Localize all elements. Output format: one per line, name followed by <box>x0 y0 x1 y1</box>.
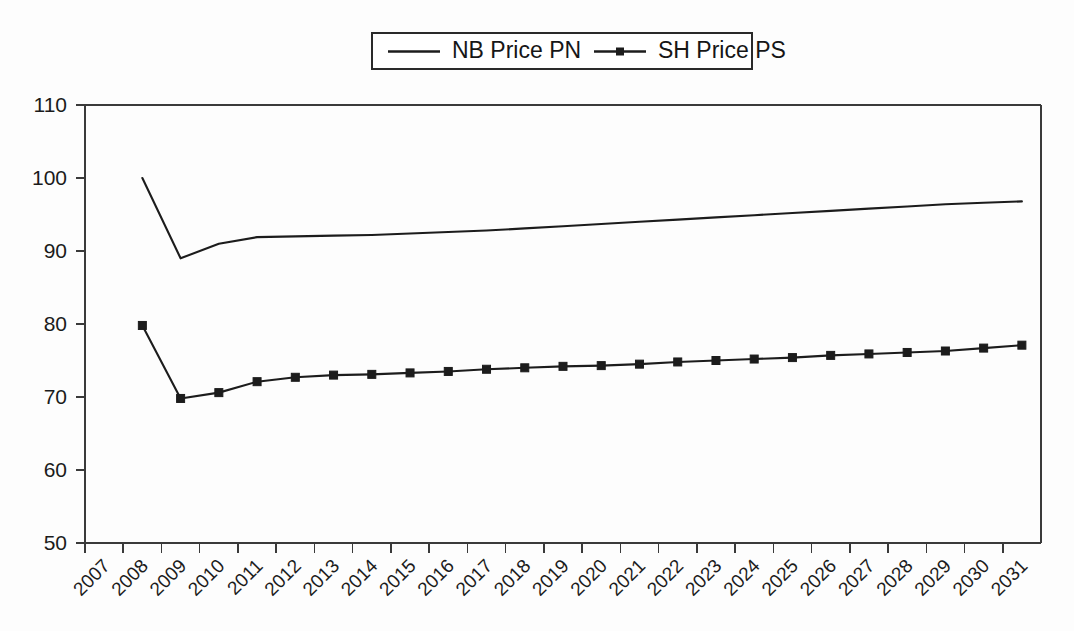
x-tick-label: 2022 <box>643 555 688 600</box>
series-data-point-marker <box>827 351 835 359</box>
series-data-point-marker <box>138 321 146 329</box>
series-data-point-marker <box>941 347 949 355</box>
y-tick-label: 80 <box>44 312 67 335</box>
series-data-point-marker <box>368 370 376 378</box>
line-chart: NB Price PN SH Price PS 5060708090100110… <box>0 0 1074 631</box>
x-tick-label: 2011 <box>223 555 267 599</box>
y-tick-label: 50 <box>44 531 67 554</box>
series-data-point-marker <box>750 355 758 363</box>
x-tick-label: 2027 <box>834 555 879 600</box>
series-data-point-marker <box>444 367 452 375</box>
x-tick-label: 2021 <box>604 555 649 600</box>
series-data-point-marker <box>788 354 796 362</box>
series-data-point-marker <box>253 378 261 386</box>
x-tick-label: 2029 <box>910 555 955 600</box>
y-axis: 5060708090100110 <box>32 93 85 554</box>
series-sh-price-ps <box>138 321 1026 402</box>
x-tick-label: 2009 <box>146 555 191 600</box>
y-tick-label: 100 <box>32 166 67 189</box>
x-tick-label: 2010 <box>184 555 229 600</box>
x-tick-label: 2018 <box>490 555 535 600</box>
data-series-group <box>138 178 1026 402</box>
legend-square-marker-icon <box>616 48 624 56</box>
series-data-point-marker <box>406 369 414 377</box>
x-tick-label: 2015 <box>375 555 420 600</box>
x-tick-label: 2023 <box>681 555 726 600</box>
series-data-point-marker <box>521 364 529 372</box>
series-data-point-marker <box>712 357 720 365</box>
series-data-point-marker <box>674 358 682 366</box>
x-tick-label: 2019 <box>528 555 573 600</box>
x-tick-label: 2026 <box>796 555 841 600</box>
series-data-point-marker <box>215 389 223 397</box>
x-tick-label: 2031 <box>987 555 1032 600</box>
series-data-point-marker <box>1018 341 1026 349</box>
x-tick-label: 2017 <box>451 555 496 600</box>
x-tick-label: 2025 <box>757 555 802 600</box>
series-nb-price-pn <box>142 178 1022 258</box>
series-data-point-marker <box>291 373 299 381</box>
series-data-point-marker <box>177 394 185 402</box>
chart-container: NB Price PN SH Price PS 5060708090100110… <box>0 0 1074 631</box>
x-tick-label: 2008 <box>107 555 152 600</box>
y-tick-label: 60 <box>44 458 67 481</box>
series-line <box>142 178 1022 258</box>
series-data-point-marker <box>597 362 605 370</box>
series-data-point-marker <box>330 371 338 379</box>
y-tick-label: 90 <box>44 239 67 262</box>
series-data-point-marker <box>980 344 988 352</box>
x-tick-label: 2012 <box>260 555 305 600</box>
y-tick-label: 110 <box>34 93 67 116</box>
series-data-point-marker <box>559 362 567 370</box>
x-axis: 2007200820092010201120122013201420152016… <box>69 543 1032 600</box>
series-data-point-marker <box>865 350 873 358</box>
x-tick-label: 2013 <box>299 555 344 600</box>
x-tick-label: 2020 <box>566 555 611 600</box>
x-tick-label: 2030 <box>949 555 994 600</box>
y-tick-label: 70 <box>44 385 67 408</box>
legend-label-nb: NB Price PN <box>452 37 581 63</box>
series-data-point-marker <box>903 348 911 356</box>
legend-label-sh: SH Price PS <box>658 37 786 63</box>
series-line <box>142 325 1022 398</box>
plot-frame <box>85 105 1041 543</box>
x-tick-label: 2024 <box>719 555 764 600</box>
x-tick-label: 2028 <box>872 555 917 600</box>
x-tick-label: 2016 <box>413 555 458 600</box>
x-tick-label: 2014 <box>337 555 382 600</box>
series-data-point-marker <box>635 360 643 368</box>
x-tick-label: 2007 <box>69 555 114 600</box>
series-data-point-marker <box>483 365 491 373</box>
legend: NB Price PN SH Price PS <box>372 33 786 69</box>
